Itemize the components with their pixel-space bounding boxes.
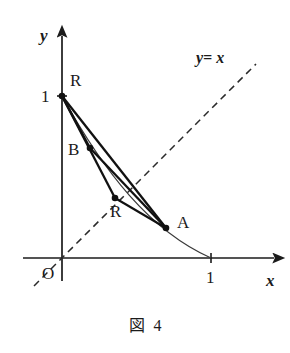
y-axis-label: y: [40, 27, 48, 44]
plot-canvas: [0, 0, 290, 353]
identity-line-dashed: [34, 64, 256, 286]
origin-label: O: [42, 265, 54, 282]
point-A: [163, 225, 170, 232]
identity-line-label: y= x: [196, 50, 224, 66]
point-R-top: [59, 93, 66, 100]
convex-curve: [62, 96, 211, 258]
figure-container: y x O 1 1 R B R A y= x 図4: [0, 0, 290, 353]
point-label-A: A: [177, 214, 189, 231]
figure-caption: 図4: [0, 312, 290, 336]
point-label-B: B: [68, 141, 79, 158]
point-R-mid: [112, 195, 119, 202]
caption-symbol: 図: [129, 317, 145, 334]
x-tick-label-1: 1: [206, 269, 215, 286]
point-label-R-mid: R: [110, 203, 121, 220]
caption-number: 4: [154, 317, 162, 334]
point-B: [87, 145, 94, 152]
x-axis-label: x: [266, 272, 275, 289]
chord-b-a: [90, 148, 166, 228]
y-tick-label-1: 1: [41, 88, 50, 105]
point-label-R-top: R: [70, 72, 81, 89]
